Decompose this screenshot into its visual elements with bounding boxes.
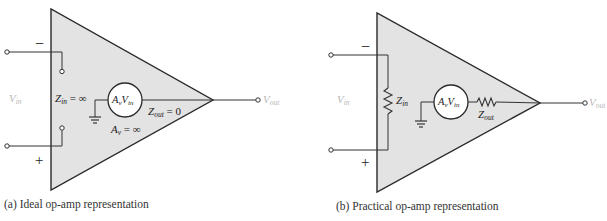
- practical-op-amp-diagram: − + Vin Zin AvVin: [329, 13, 606, 192]
- output-terminal: [540, 101, 587, 105]
- terminal-icon: [329, 148, 333, 152]
- terminal-icon: [329, 53, 333, 57]
- ideal-op-amp-diagram: − + Vin Zin = ∞ AvVin Zout =: [5, 9, 280, 190]
- zout-label: Zout = 0: [148, 105, 181, 119]
- open-terminal-icon: [60, 69, 64, 73]
- vin-label: Vin: [9, 92, 22, 106]
- minus-sign: −: [35, 35, 44, 52]
- terminal-icon: [5, 144, 9, 148]
- vout-label: Vout: [263, 93, 280, 107]
- minus-sign: −: [361, 38, 370, 55]
- caption-ideal: (a) Ideal op-amp representation: [4, 198, 149, 210]
- terminal-icon: [256, 98, 260, 102]
- terminal-icon: [583, 101, 587, 105]
- plus-sign: +: [361, 154, 369, 170]
- vout-label: Vout: [589, 96, 606, 110]
- gain-label: Av = ∞: [110, 123, 141, 137]
- output-terminal: [213, 98, 260, 102]
- terminal-icon: [5, 50, 9, 54]
- caption-practical: (b) Practical op-amp representation: [336, 200, 499, 212]
- zin-label: Zin = ∞: [55, 92, 87, 106]
- open-terminal-icon: [60, 126, 64, 130]
- plus-sign: +: [35, 152, 43, 168]
- vin-label: Vin: [337, 93, 350, 107]
